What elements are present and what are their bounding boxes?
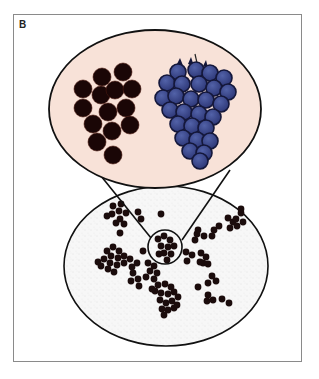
grape-cluster-illustration bbox=[0, 0, 319, 379]
microscopic-field-oval bbox=[64, 186, 268, 346]
